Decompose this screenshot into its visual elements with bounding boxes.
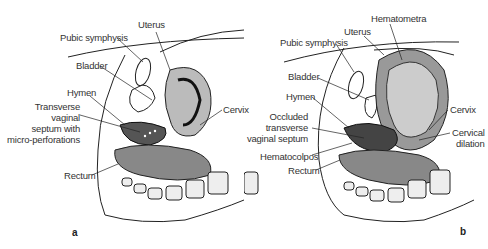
label-bladder: Bladder — [288, 71, 319, 82]
label-septum-line1: Transverse — [20, 101, 80, 112]
panel-letter-b: b — [460, 226, 466, 237]
label-pubic-symphysis: Pubic symphysis — [280, 37, 348, 48]
label-uterus: Uterus — [344, 26, 371, 37]
label-septum-line1: Occluded — [244, 111, 308, 122]
label-hymen: Hymen — [286, 91, 315, 102]
label-rectum: Rectum — [288, 165, 320, 176]
label-hematocolpos: Hematocolpos — [260, 151, 318, 162]
label-cervix: Cervix — [450, 104, 476, 115]
label-rectum: Rectum — [64, 170, 96, 181]
label-cervical-dilation-line2: dilation — [456, 138, 485, 149]
panel-letter-a: a — [72, 227, 78, 238]
label-uterus: Uterus — [138, 19, 165, 30]
label-cervical-dilation-line1: Cervical — [452, 127, 485, 138]
label-septum-line3: vaginal septum — [244, 133, 308, 144]
label-septum-line3: septum with — [10, 123, 80, 134]
label-pubic-symphysis: Pubic symphysis — [60, 32, 128, 43]
label-septum-line2: transverse — [244, 122, 308, 133]
panel-b-occluded-septum-hematometra: Hematometra Uterus Pubic symphysis Bladd… — [244, 0, 488, 249]
label-bladder: Bladder — [76, 60, 107, 71]
label-septum-line2: vaginal — [20, 112, 80, 123]
panel-a-transverse-septum-perforated: Uterus Pubic symphysis Bladder Hymen Tra… — [0, 0, 244, 249]
label-septum-line4: micro-perforations — [0, 134, 80, 145]
label-hematometra: Hematometra — [371, 13, 426, 24]
label-hymen: Hymen — [67, 87, 96, 98]
